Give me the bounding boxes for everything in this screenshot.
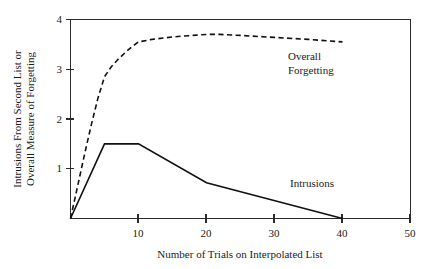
annotation-overall-forgetting-line2: Forgetting — [288, 64, 334, 76]
annotation-overall-forgetting-line1: Overall — [288, 50, 321, 62]
y-tick-label-2: 2 — [57, 113, 63, 125]
annotation-overall-forgetting: Overall Forgetting — [288, 50, 334, 76]
line-chart: 4 3 2 1 10 20 30 40 50 Overall Forgettin… — [0, 0, 434, 269]
y-axis-title: Intrusions From Second List or Overall M… — [11, 50, 36, 188]
y-tick-labels: 4 3 2 1 — [57, 13, 63, 174]
x-tick-label-30: 30 — [269, 227, 281, 239]
x-axis-title: Number of Trials on Interpolated List — [157, 248, 322, 260]
y-tick-label-1: 1 — [57, 162, 63, 174]
series-line-overall-forgetting — [71, 34, 343, 218]
x-tick-label-40: 40 — [337, 227, 349, 239]
y-tick-label-4: 4 — [57, 13, 63, 25]
x-tick-label-10: 10 — [133, 227, 145, 239]
x-tick-label-20: 20 — [201, 227, 213, 239]
y-tick-label-3: 3 — [57, 63, 63, 75]
x-tick-labels: 10 20 30 40 50 — [133, 227, 417, 239]
plot-frame — [71, 20, 411, 219]
y-axis-title-line1: Intrusions From Second List or — [11, 50, 23, 188]
annotation-intrusions: Intrusions — [290, 177, 334, 189]
x-tick-label-50: 50 — [405, 227, 417, 239]
y-axis-title-line2: Overall Measure of Forgetting — [24, 52, 36, 186]
chart-page: 4 3 2 1 10 20 30 40 50 Overall Forgettin… — [0, 0, 434, 269]
